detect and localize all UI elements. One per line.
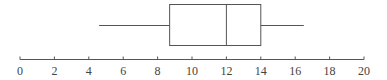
tick-label: 16 xyxy=(289,64,301,78)
tick-label: 10 xyxy=(186,64,198,78)
iqr-box xyxy=(170,5,261,46)
box-plot-chart: 02468101214161820 xyxy=(0,0,387,80)
box-plot xyxy=(99,5,304,46)
tick-label: 12 xyxy=(220,64,232,78)
tick-label: 8 xyxy=(155,64,161,78)
tick-label: 4 xyxy=(86,64,92,78)
tick-label: 6 xyxy=(120,64,126,78)
tick-label: 0 xyxy=(17,64,23,78)
tick-label: 14 xyxy=(255,64,267,78)
tick-label: 2 xyxy=(51,64,57,78)
x-axis: 02468101214161820 xyxy=(17,57,370,79)
tick-label: 18 xyxy=(324,64,336,78)
tick-label: 20 xyxy=(358,64,370,78)
